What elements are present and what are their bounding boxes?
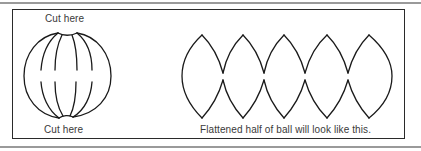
lobe-5-left-upper — [348, 35, 369, 73]
lobe-3-left-upper — [264, 35, 284, 73]
cut-here-top-label: Cut here — [45, 13, 84, 24]
meridian-3-upper — [72, 35, 77, 70]
lobe-3-left-lower — [264, 80, 284, 118]
lobe-4-left-lower — [305, 80, 327, 118]
lobe-1-left — [182, 35, 202, 118]
lobe-4-right-upper — [327, 35, 348, 73]
lobe-5-left-lower — [348, 80, 369, 118]
meridian-2-upper — [55, 35, 62, 70]
lobe-4-left-upper — [305, 35, 327, 73]
cut-here-bottom-label: Cut here — [44, 124, 83, 135]
lobe-2-right-lower — [243, 80, 264, 118]
lobe-3-right-upper — [284, 35, 305, 73]
flattened-caption: Flattened half of ball will look like th… — [200, 124, 371, 135]
lobe-2-left-upper — [223, 35, 243, 73]
lobe-1-right-lower — [202, 80, 223, 118]
meridian-2-lower — [55, 82, 63, 116]
ball-top-seam — [58, 33, 77, 35]
flattened-lobes — [182, 35, 392, 118]
lobe-2-right-upper — [243, 35, 264, 73]
lobe-1-right-upper — [202, 35, 223, 73]
lobe-4-right-lower — [327, 80, 348, 118]
lobe-2-left-lower — [223, 80, 243, 118]
meridian-4-upper — [77, 33, 92, 70]
meridian-3-lower — [70, 82, 76, 116]
ball-bottom-seam — [59, 116, 73, 118]
lobe-5-right — [369, 35, 392, 118]
lobe-3-right-lower — [284, 80, 305, 118]
ball-outline-left — [24, 33, 59, 118]
ball-outline-right — [73, 33, 111, 117]
ball-drawing — [24, 33, 111, 118]
